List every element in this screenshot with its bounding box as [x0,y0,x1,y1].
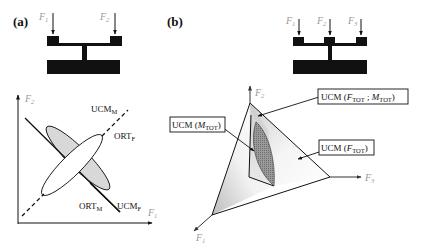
label-ort-m: ORTM [79,201,102,212]
axis-label-f1: F1 [195,232,205,244]
ucm-3d-plot: F2 F3 F1 UCM (FTOT ; MTOT) UCM (MTOT) UC… [170,86,408,244]
panel-a: (a) F1 F2 F2 F1 [13,11,157,224]
axis-label-f1: F1 [147,207,157,219]
axis-f1 [194,215,212,231]
force-label-f1: F1 [285,15,295,27]
label-ucm-m: UCMM [91,104,118,115]
force-label-f2: F2 [99,11,110,23]
pointer-ucm-ftot-mtot [258,97,319,116]
apparatus-three-finger: F1 F2 F3 [285,15,367,74]
panel-b-label: (b) [167,14,183,29]
annotation-ucm-ftot-mtot: UCM (FTOT ; MTOT) [318,89,408,104]
force-label-f2: F2 [316,15,327,27]
label-ort-f: ORTF [114,131,135,142]
panel-b: (b) F1 F2 F3 [167,14,408,244]
annotation-ucm-mtot: UCM (MTOT) [170,117,225,132]
handle-stem [82,46,87,61]
axis-label-f2: F2 [24,93,35,105]
handle-beam [293,43,367,46]
handle-beam [47,43,122,46]
label-ucm-f: UCMF [117,201,142,212]
ucm-m-dashed-lower [22,194,44,216]
base-block [47,60,120,74]
handle-stem [328,46,332,61]
panel-a-label: (a) [13,14,28,29]
apparatus-two-finger: F1 F2 [38,11,122,74]
figure: (a) F1 F2 F2 F1 [0,0,421,249]
base-block [293,60,367,74]
axis-label-f2: F2 [254,87,265,99]
annotation-ucm-ftot: UCM (FTOT) [319,140,374,155]
force-label-f3: F3 [347,15,358,27]
ucm-2d-plot: F2 F1 UCMM ORTF ORTM UCMF [18,93,157,224]
axis-label-f3: F3 [364,172,375,184]
force-label-f1: F1 [38,11,48,23]
